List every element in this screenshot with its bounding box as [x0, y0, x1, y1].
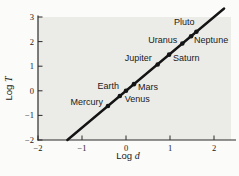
y-tick-label: −2 [25, 135, 34, 145]
y-tick-label: 0 [30, 86, 34, 96]
y-tick-label: 1 [30, 61, 34, 71]
planet-label-saturn: Saturn [173, 53, 200, 63]
data-point-mercury [106, 104, 111, 109]
x-tick-label: −2 [33, 143, 42, 153]
planet-label-uranus: Uranus [148, 35, 178, 45]
x-tick-label: 2 [212, 143, 216, 153]
data-point-earth [124, 89, 129, 94]
x-tick-label: −1 [77, 143, 86, 153]
chart-canvas: −2−1012−2−10123MercuryVenusEarthMarsJupi… [0, 0, 239, 176]
planet-label-pluto: Pluto [174, 17, 195, 27]
data-point-jupiter [155, 62, 160, 67]
x-tick-label: 1 [168, 143, 172, 153]
planet-label-mercury: Mercury [70, 97, 103, 107]
y-axis-title: Log T [3, 75, 14, 101]
planet-label-jupiter: Jupiter [125, 53, 152, 63]
planet-label-earth: Earth [97, 81, 119, 91]
planet-label-mars: Mars [138, 82, 158, 92]
data-point-saturn [167, 52, 172, 57]
planet-label-neptune: Neptune [194, 35, 228, 45]
x-axis-title: Log d [116, 150, 141, 161]
data-point-venus [118, 94, 123, 99]
data-point-pluto [194, 29, 199, 34]
data-point-uranus [180, 41, 185, 46]
y-tick-label: 2 [30, 37, 34, 47]
planet-label-venus: Venus [125, 94, 151, 104]
kepler-log-log-plot: −2−1012−2−10123MercuryVenusEarthMarsJupi… [0, 0, 239, 176]
data-point-mars [132, 82, 137, 87]
data-point-neptune [189, 34, 194, 39]
y-tick-label: 3 [30, 12, 34, 22]
y-tick-label: −1 [25, 110, 34, 120]
